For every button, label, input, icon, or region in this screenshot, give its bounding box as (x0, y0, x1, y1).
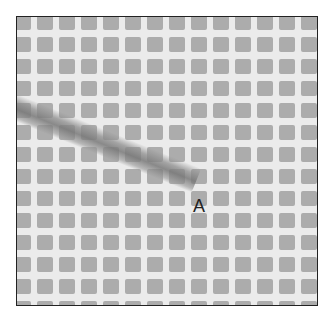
mesh-cell (16, 147, 31, 162)
mesh-cell (279, 125, 295, 140)
photo-frame: A (16, 16, 318, 306)
mesh-cell (169, 59, 185, 74)
mesh-cell (191, 147, 207, 162)
mesh-cell (125, 16, 141, 30)
mesh-cell (279, 16, 295, 30)
mesh-cell (147, 257, 163, 272)
mesh-cell (103, 213, 119, 228)
mesh-cell (235, 257, 251, 272)
mesh-cell (103, 37, 119, 52)
mesh-cell (16, 279, 31, 294)
mesh-cell (169, 37, 185, 52)
mesh-cell (147, 279, 163, 294)
mesh-cell (103, 169, 119, 184)
mesh-cell (59, 81, 75, 96)
mesh-cell (279, 301, 295, 306)
mesh-cell (59, 257, 75, 272)
mesh-cell (103, 301, 119, 306)
mesh-cell (169, 125, 185, 140)
mesh-cell (257, 125, 273, 140)
mesh-cell (213, 213, 229, 228)
mesh-cell (103, 235, 119, 250)
mesh-cell (59, 37, 75, 52)
mesh-cell (147, 191, 163, 206)
mesh-cell (169, 213, 185, 228)
mesh-cell (257, 81, 273, 96)
mesh-cell (147, 125, 163, 140)
mesh-cell (213, 147, 229, 162)
mesh-cell (279, 81, 295, 96)
mesh-cell (16, 301, 31, 306)
mesh-cell (37, 191, 53, 206)
mesh-cell (37, 16, 53, 30)
mesh-cell (16, 37, 31, 52)
mesh-cell (301, 191, 317, 206)
mesh-cell (301, 81, 317, 96)
mesh-cell (125, 279, 141, 294)
mesh-cell (213, 257, 229, 272)
mesh-cell (81, 37, 97, 52)
mesh-cell (81, 16, 97, 30)
mesh-cell (213, 301, 229, 306)
mesh-cell (59, 16, 75, 30)
mesh-cell (235, 169, 251, 184)
mesh-cell (301, 147, 317, 162)
mesh-cell (191, 16, 207, 30)
mesh-cell (279, 103, 295, 118)
mesh-cell (169, 103, 185, 118)
mesh-cell (59, 279, 75, 294)
mesh-cell (16, 59, 31, 74)
mesh-cell (81, 81, 97, 96)
mesh-cell (81, 103, 97, 118)
mesh-cell (213, 279, 229, 294)
mesh-cell (147, 213, 163, 228)
mesh-cell (147, 235, 163, 250)
mesh-cell (125, 103, 141, 118)
mesh-cell (213, 59, 229, 74)
mesh-cell (191, 235, 207, 250)
mesh-cell (257, 279, 273, 294)
mesh-cell (147, 59, 163, 74)
mesh-cell (279, 59, 295, 74)
mesh-cell (191, 279, 207, 294)
mesh-cell (257, 301, 273, 306)
mesh-cell (37, 147, 53, 162)
mesh-cell (235, 103, 251, 118)
mesh-cell (37, 279, 53, 294)
mesh-cell (191, 81, 207, 96)
mesh-cell (257, 37, 273, 52)
mesh-cell (235, 191, 251, 206)
mesh-cell (37, 257, 53, 272)
mesh-cell (301, 125, 317, 140)
mesh-cell (125, 191, 141, 206)
mesh-cell (301, 103, 317, 118)
mesh-cell (279, 279, 295, 294)
mesh-cell (81, 257, 97, 272)
mesh-cell (125, 301, 141, 306)
mesh-cell (147, 81, 163, 96)
mesh-cell (257, 147, 273, 162)
mesh-cell (235, 301, 251, 306)
mesh-cell (191, 37, 207, 52)
mesh-cell (16, 257, 31, 272)
mesh-cell (213, 125, 229, 140)
mesh-cell (169, 81, 185, 96)
mesh-cell (37, 213, 53, 228)
mesh-cell (81, 191, 97, 206)
mesh-cell (16, 213, 31, 228)
mesh-cell (235, 16, 251, 30)
mesh-cell (213, 81, 229, 96)
mesh-cell (257, 257, 273, 272)
mesh-cell (257, 213, 273, 228)
mesh-cell (81, 235, 97, 250)
point-label: A (193, 197, 205, 215)
mesh-cell (125, 235, 141, 250)
mesh-cell (169, 191, 185, 206)
mesh-cell (59, 191, 75, 206)
mesh-cell (103, 81, 119, 96)
mesh-cell (16, 235, 31, 250)
mesh-cell (213, 191, 229, 206)
mesh-cell (235, 59, 251, 74)
mesh-cell (213, 37, 229, 52)
mesh-cell (213, 16, 229, 30)
